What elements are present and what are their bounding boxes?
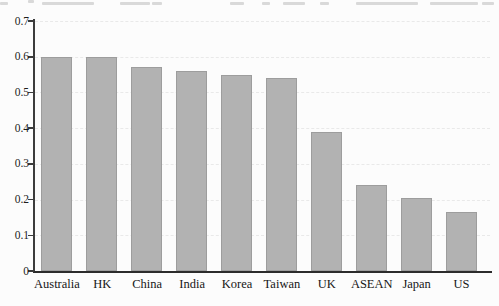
y-tick-label-0.5: 0.5 [0,86,29,99]
bar-slot-hk [79,21,124,271]
bar-asean [356,185,387,271]
bar-us [446,212,477,271]
x-axis-labels: AustraliaHKChinaIndiaKoreaTaiwanUKASEANJ… [34,277,484,292]
caption-fragment [28,0,34,3]
bar-slot-uk [304,21,349,271]
y-tick-label-0: 0 [0,265,29,278]
caption-fragment [230,2,244,5]
caption-fragment [283,2,305,5]
bar-australia [41,57,72,271]
bar-taiwan [266,78,297,271]
bar-korea [221,75,252,271]
caption-fragment [42,2,94,5]
bar-slot-china [124,21,169,271]
x-label-uk: UK [304,277,349,292]
y-tick-label-0.7: 0.7 [0,15,29,28]
bar-uk [311,132,342,271]
bar-slot-japan [394,21,439,271]
y-tick-label-0.3: 0.3 [0,157,29,170]
caption-fragment [320,2,329,5]
bar-slot-australia [34,21,79,271]
bar-chart-figure: 00.10.20.30.40.50.60.7 AustraliaHKChinaI… [0,0,499,306]
y-tick-label-0.6: 0.6 [0,50,29,63]
bar-slot-asean [349,21,394,271]
y-tick-label-0.2: 0.2 [0,193,29,206]
x-label-australia: Australia [34,277,80,292]
bars-container [34,21,484,271]
caption-fragment [120,2,150,5]
caption-fragment [262,2,270,5]
y-tick-label-0.4: 0.4 [0,122,29,135]
bar-slot-india [169,21,214,271]
bar-japan [401,198,432,271]
caption-fragment [356,2,418,5]
bar-slot-taiwan [259,21,304,271]
bar-hk [86,57,117,271]
x-label-taiwan: Taiwan [259,277,304,292]
bar-slot-korea [214,21,259,271]
caption-fragment [0,2,8,5]
bar-india [176,71,207,271]
y-tick-label-0.1: 0.1 [0,229,29,242]
caption-fragment [152,2,162,5]
x-label-china: China [125,277,170,292]
bar-slot-us [439,21,484,271]
x-label-us: US [439,277,484,292]
x-axis-line [33,271,492,273]
x-label-hk: HK [80,277,125,292]
x-label-japan: Japan [394,277,439,292]
x-label-asean: ASEAN [349,277,394,292]
x-label-korea: Korea [215,277,260,292]
x-label-india: India [170,277,215,292]
bar-china [131,67,162,271]
caption-fragment [482,2,494,5]
caption-fragment [430,2,478,5]
